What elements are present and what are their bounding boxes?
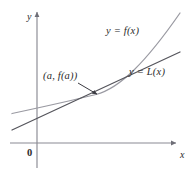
origin-label: 0: [27, 148, 32, 159]
linear-approximation-figure: y x 0 y = f(x) y = L(x) (a, f(a)): [0, 0, 193, 175]
function-curve-label: y = f(x): [106, 26, 139, 37]
tangent-point-label: (a, f(a)): [43, 71, 77, 82]
y-axis-label: y: [27, 12, 32, 22]
point-leader-arrow: [78, 83, 97, 94]
tangent-line-label: y = L(x): [129, 67, 165, 78]
x-axis-label: x: [180, 150, 185, 160]
